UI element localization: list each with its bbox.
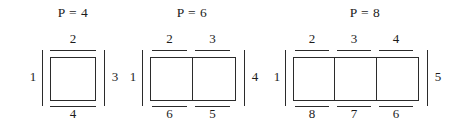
edge-label-bottom-1: 8 bbox=[295, 107, 329, 121]
unit-cell bbox=[51, 58, 95, 100]
edge-label-bottom-1: 4 bbox=[50, 107, 96, 121]
edge-tick-left bbox=[142, 50, 143, 106]
edge-label-bottom-2: 5 bbox=[195, 107, 230, 121]
edge-tick-right bbox=[244, 50, 245, 106]
edge-label-left: 1 bbox=[126, 70, 140, 84]
figure-p8-grid bbox=[293, 57, 419, 101]
edge-label-left: 1 bbox=[26, 70, 40, 84]
unit-cell bbox=[377, 58, 418, 100]
edge-label-top-2: 3 bbox=[337, 32, 371, 46]
edge-label-right: 5 bbox=[431, 70, 445, 84]
edge-tick-top-1 bbox=[152, 50, 187, 51]
edge-label-top-2: 3 bbox=[195, 32, 230, 46]
edge-label-bottom-3: 6 bbox=[379, 107, 413, 121]
edge-label-top-1: 2 bbox=[50, 32, 96, 46]
edge-label-bottom-2: 7 bbox=[337, 107, 371, 121]
figure-p4-grid bbox=[50, 57, 96, 101]
figure-p6-grid bbox=[150, 57, 236, 101]
edge-label-top-1: 2 bbox=[295, 32, 329, 46]
edge-label-bottom-1: 6 bbox=[152, 107, 187, 121]
edge-tick-top-1 bbox=[50, 50, 96, 51]
figure-p4-title: P = 4 bbox=[26, 5, 120, 21]
unit-cell bbox=[151, 58, 193, 100]
edge-tick-top-2 bbox=[195, 50, 230, 51]
unit-cell bbox=[335, 58, 376, 100]
edge-tick-right bbox=[104, 50, 105, 106]
figure-p6: P = 6 2 3 6 5 1 4 bbox=[128, 0, 260, 129]
perimeter-diagram: P = 4 2 4 1 3 P = 6 bbox=[0, 0, 457, 129]
figure-p4: P = 4 2 4 1 3 bbox=[26, 0, 120, 129]
figure-p8-title: P = 8 bbox=[275, 5, 455, 21]
edge-tick-top-2 bbox=[337, 50, 371, 51]
edge-tick-right bbox=[427, 50, 428, 106]
edge-tick-left bbox=[285, 50, 286, 106]
unit-cell bbox=[294, 58, 335, 100]
unit-cell bbox=[193, 58, 235, 100]
edge-label-right: 3 bbox=[108, 70, 122, 84]
edge-label-top-3: 4 bbox=[379, 32, 413, 46]
edge-label-top-1: 2 bbox=[152, 32, 187, 46]
figure-p6-title: P = 6 bbox=[126, 5, 258, 21]
edge-label-right: 4 bbox=[248, 70, 262, 84]
edge-tick-left bbox=[42, 50, 43, 106]
edge-label-left: 1 bbox=[270, 70, 284, 84]
edge-tick-top-3 bbox=[379, 50, 413, 51]
figure-p8: P = 8 2 3 4 8 7 6 1 5 bbox=[272, 0, 452, 129]
edge-tick-top-1 bbox=[295, 50, 329, 51]
